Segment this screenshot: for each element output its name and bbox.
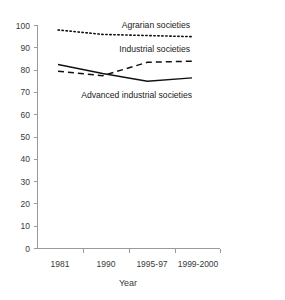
y-tick-label-40: 40 (21, 154, 31, 164)
y-tick-label-0: 0 (25, 244, 30, 254)
y-tick-label-70: 70 (21, 87, 31, 97)
y-tick-label-30: 30 (21, 177, 31, 187)
x-tick-label-1999-2000: 1999-2000 (178, 259, 219, 269)
x-tick-label-1995-97: 1995-97 (136, 259, 167, 269)
y-tick-label-60: 60 (21, 110, 31, 120)
y-tick-label-80: 80 (21, 65, 31, 75)
series-label-agrarian: Agrarian societies (122, 20, 190, 30)
x-tick-label-1990: 1990 (97, 259, 116, 269)
y-tick-label-90: 90 (21, 43, 31, 53)
line-chart: 100 90 80 70 60 50 40 30 20 10 0 1981 19… (0, 0, 285, 300)
x-tick-marks (84, 249, 221, 254)
x-axis-title: Year (119, 278, 137, 288)
series-label-industrial: Industrial societies (119, 44, 190, 54)
y-tick-label-20: 20 (21, 199, 31, 209)
x-tick-label-1981: 1981 (51, 259, 70, 269)
y-tick-label-50: 50 (21, 132, 31, 142)
chart-canvas: 100 90 80 70 60 50 40 30 20 10 0 1981 19… (0, 0, 285, 300)
y-tick-label-10: 10 (21, 221, 31, 231)
y-tick-label-100: 100 (16, 21, 30, 31)
y-tick-marks (34, 26, 38, 249)
series-label-advanced: Advanced industrial societies (81, 90, 192, 100)
series-line-agrarian (58, 30, 192, 37)
